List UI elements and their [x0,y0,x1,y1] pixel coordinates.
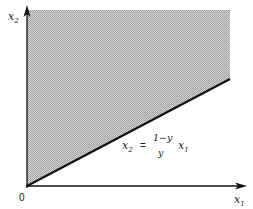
svg-text:1−y: 1−y [153,132,173,143]
origin-label: 0 [19,192,25,203]
shaded-region [27,10,230,186]
x2-axis-label: x2 [8,10,19,25]
x1-axis-label: x1 [234,193,245,208]
svg-text:y: y [157,147,164,158]
svg-text:x2: x2 [122,139,133,154]
line-equation-label: x2 = 1−y y x1 [122,132,189,158]
svg-text:x1: x1 [178,139,189,154]
diagram-canvas: x2 x1 0 x2 = 1−y y x1 [0,0,253,209]
svg-text:=: = [140,140,146,151]
